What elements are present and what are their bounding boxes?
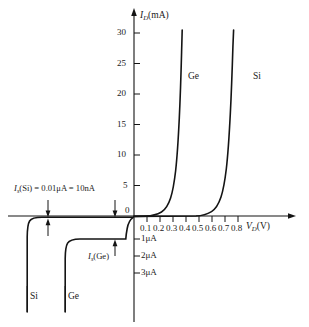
y-neg-tick-3ua: 3μA	[141, 268, 157, 277]
curve-label-reverse-ge: Ge	[68, 292, 79, 302]
x-tick-0-6: 0.6	[205, 224, 216, 233]
y-tick-15: 15	[117, 120, 126, 129]
x-axis-arrowhead	[288, 213, 296, 219]
diode-iv-characteristic-figure: ID(mA) VD(V) 30 25 20 15 10 5 0 1μA 2μA …	[0, 0, 309, 327]
y-axis-ticks	[134, 33, 140, 186]
curve-forward-ge	[134, 30, 182, 216]
y-tick-20: 20	[117, 89, 126, 98]
is-si-right-arrow	[113, 200, 118, 217]
x-axis-unit: (V)	[257, 221, 270, 231]
x-tick-0-5: 0.5	[192, 224, 203, 233]
plot-area	[0, 0, 309, 327]
y-axis-arrowhead	[131, 8, 137, 16]
x-tick-0-2: 0.2	[153, 224, 164, 233]
curve-label-forward-ge: Ge	[188, 72, 199, 82]
annotation-is-ge-rest: (Ge)	[93, 251, 109, 261]
y-neg-tick-1ua: 1μA	[141, 234, 157, 243]
x-tick-0-3: 0.3	[166, 224, 177, 233]
annotation-is-ge: Is(Ge)	[88, 252, 109, 262]
curve-forward-si	[134, 30, 234, 216]
x-tick-0-7: 0.7	[218, 224, 229, 233]
y-axis-unit: (mA)	[148, 10, 169, 20]
is-ge-arrow	[113, 239, 118, 256]
y-tick-5: 5	[123, 181, 128, 190]
curve-label-reverse-si: Si	[30, 292, 38, 302]
y-neg-tick-2ua: 2μA	[141, 251, 157, 260]
annotation-is-si-rest: (Si) = 0.01μA = 10nA	[19, 183, 95, 193]
y-tick-30: 30	[117, 28, 126, 37]
y-tick-25: 25	[117, 59, 126, 68]
x-tick-0-4: 0.4	[179, 224, 190, 233]
y-tick-10: 10	[117, 150, 126, 159]
y-axis-negative-ticks	[134, 239, 140, 273]
x-axis-title: VD(V)	[246, 222, 270, 233]
x-tick-0-1: 0.1	[140, 224, 151, 233]
curve-reverse-si	[27, 217, 133, 312]
curve-label-forward-si: Si	[253, 72, 261, 82]
y-axis-title: ID(mA)	[140, 11, 169, 22]
x-tick-0-8: 0.8	[231, 224, 242, 233]
annotation-is-si: Is(Si) = 0.01μA = 10nA	[14, 184, 95, 194]
y-tick-0: 0	[125, 206, 130, 215]
